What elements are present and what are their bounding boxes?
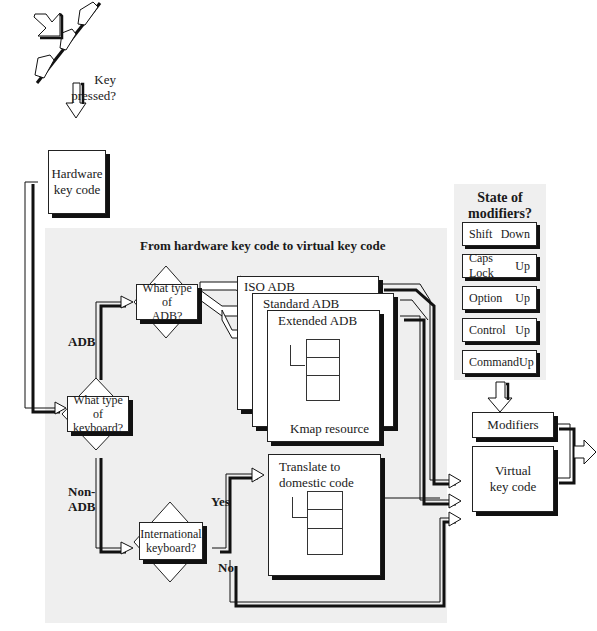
modifier-name: Command [469,355,519,370]
adb-type-line1: What type of [137,281,197,309]
modifiers-title-line2: modifiers? [454,206,546,222]
modifier-shift: Shift Down [462,222,537,246]
no-label: No [218,560,234,576]
modifier-state: Down [501,227,530,242]
keyboard-type-line1: What type of [68,393,128,421]
modifiers-panel-title: State of modifiers? [454,190,546,222]
modifier-name: Caps Lock [469,251,515,281]
virtual-line2: key code [490,479,537,495]
kmap-table [306,339,340,401]
modifier-state: Up [519,355,534,370]
adb-type-decision: What type of ADB? [136,284,198,320]
modifier-option: Option Up [462,286,537,310]
modifiers-output-box: Modifiers [472,412,554,438]
modifier-state: Up [515,259,530,274]
domestic-pointer-icon [292,497,307,518]
keyboard-type-line2: keyboard? [73,421,123,435]
modifier-name: Option [469,291,502,306]
translate-line2: domestic code [279,475,354,491]
non-adb-branch-label: Non- ADB [68,484,95,514]
translate-line1: Translate to [279,459,340,475]
modifier-state: Up [515,323,530,338]
adb-branch-label: ADB [68,334,95,350]
non-adb-line1: Non- [68,484,95,499]
modifier-state: Up [515,291,530,306]
virtual-key-code-box: Virtual key code [472,446,554,512]
international-decision: International keyboard? [139,522,203,560]
international-line1: International [140,527,201,541]
international-line2: keyboard? [146,541,196,555]
domestic-table [307,491,343,555]
kmap-resource-label: Kmap resource [290,421,369,437]
lookup-pointer-icon [290,345,305,366]
non-adb-line2: ADB [68,499,95,514]
translate-domestic-box: Translate to domestic code [268,454,381,576]
modifier-command: Command Up [462,350,537,374]
modifier-control: Control Up [462,318,537,342]
yes-label: Yes [211,494,230,510]
modifiers-output-text: Modifiers [487,417,538,433]
keyboard-type-decision: What type of keyboard? [67,396,129,432]
extended-adb-title: Extended ADB [278,313,357,329]
virtual-line1: Virtual [495,463,531,479]
modifier-name: Control [469,323,506,338]
modifiers-title-line1: State of [454,190,546,206]
modifier-name: Shift [469,227,492,242]
extended-adb-page: Extended ADB Kmap resource [267,310,380,442]
modifier-caps-lock: Caps Lock Up [462,254,537,278]
adb-type-line2: ADB? [152,309,183,323]
